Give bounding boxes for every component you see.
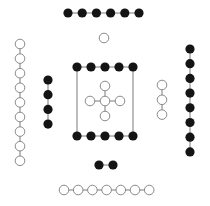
bottom-hollow-row-node <box>116 185 126 195</box>
left-hollow-column-node <box>15 83 25 93</box>
box-top-filled-row-node <box>128 62 137 71</box>
box-top-filled-row-node <box>86 62 95 71</box>
bottom-hollow-row-node <box>130 185 140 195</box>
left-filled-column-node <box>43 120 52 129</box>
box-bottom-filled-row-node <box>100 131 109 140</box>
top-filled-row-node <box>78 8 87 17</box>
top-filled-row-node <box>134 8 143 17</box>
bottom-hollow-row-node <box>73 185 83 195</box>
bottom-filled-pair-node <box>108 160 117 169</box>
left-hollow-column-node <box>15 54 25 64</box>
right-filled-column-node <box>185 147 194 156</box>
bottom-hollow-row-node <box>144 185 154 195</box>
right-hollow-column-node <box>157 110 167 120</box>
right-filled-column-node <box>185 89 194 98</box>
right-filled-column-node <box>185 44 194 53</box>
box-bottom-filled-row-node <box>72 131 81 140</box>
right-hollow-column-node <box>157 80 167 90</box>
center-cross-node <box>85 96 95 106</box>
center-cross-node <box>100 96 110 106</box>
left-hollow-column-node <box>15 127 25 137</box>
right-filled-column-node <box>185 103 194 112</box>
box-bottom-filled-row-node <box>114 131 123 140</box>
center-cross-node <box>100 81 110 91</box>
box-top-filled-row-node <box>114 62 123 71</box>
left-hollow-column-node <box>15 156 25 166</box>
left-hollow-column-node <box>15 98 25 108</box>
left-filled-column-node <box>43 90 52 99</box>
right-filled-column-node <box>185 118 194 127</box>
top-filled-row-node <box>106 8 115 17</box>
top-filled-row-node <box>120 8 129 17</box>
box-top-filled-row-node <box>100 62 109 71</box>
single-hollow-node-node <box>99 33 109 43</box>
right-hollow-column-node <box>157 95 167 105</box>
box-bottom-filled-row-node <box>86 131 95 140</box>
bottom-hollow-row-node <box>88 185 98 195</box>
nodes-layer <box>15 8 194 194</box>
bottom-filled-pair-node <box>94 160 103 169</box>
diagram-canvas <box>0 0 210 206</box>
right-filled-column-node <box>185 74 194 83</box>
right-filled-column-node <box>185 59 194 68</box>
left-hollow-column-node <box>15 141 25 151</box>
box-top-filled-row-node <box>72 62 81 71</box>
box-bottom-filled-row-node <box>128 131 137 140</box>
left-filled-column-node <box>43 105 52 114</box>
top-filled-row-node <box>63 8 72 17</box>
right-filled-column-node <box>185 133 194 142</box>
left-filled-column-node <box>43 75 52 84</box>
center-cross-node <box>115 96 125 106</box>
bottom-hollow-row-node <box>59 185 69 195</box>
left-hollow-column-node <box>15 112 25 122</box>
top-filled-row-node <box>92 8 101 17</box>
left-hollow-column-node <box>15 68 25 78</box>
left-hollow-column-node <box>15 39 25 49</box>
bottom-hollow-row-node <box>102 185 112 195</box>
center-cross-node <box>100 111 110 121</box>
